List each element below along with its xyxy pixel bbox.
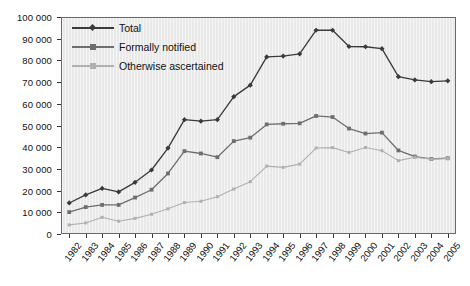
x-axis-tick-mark [250, 234, 251, 238]
legend-label-formally-notified: Formally notified [119, 41, 196, 53]
data-point-marker [232, 139, 236, 143]
data-point-marker [84, 221, 87, 224]
series-formally-notified [67, 114, 449, 214]
y-axis-tick-label: 20 000 [0, 185, 52, 196]
x-axis-tick-mark [283, 234, 284, 238]
data-point-marker [249, 180, 252, 183]
data-point-marker [347, 127, 351, 131]
data-point-marker [166, 172, 170, 176]
legend-label-total: Total [119, 22, 141, 34]
legend-item-otherwise-ascertained: Otherwise ascertained [72, 60, 223, 72]
y-axis-tick-label: 30 000 [0, 163, 52, 174]
x-axis-tick-mark [316, 234, 317, 238]
data-point-marker [282, 166, 285, 169]
x-axis-tick-mark [300, 234, 301, 238]
data-point-marker [281, 53, 286, 58]
y-axis-tick-label: 80 000 [0, 55, 52, 66]
data-point-marker [199, 200, 202, 203]
data-point-marker [298, 163, 301, 166]
data-point-marker [429, 79, 434, 84]
y-axis-tick-label: 90 000 [0, 33, 52, 44]
legend-swatch-formally-notified [72, 41, 114, 53]
data-point-marker [298, 121, 302, 125]
x-axis-tick-mark [448, 234, 449, 238]
data-point-marker [380, 149, 383, 152]
x-axis-tick-mark [86, 234, 87, 238]
data-point-marker [166, 207, 169, 210]
data-point-marker [265, 123, 269, 127]
y-axis-tick-label: 50 000 [0, 120, 52, 131]
data-point-marker [446, 157, 449, 160]
data-point-marker [68, 223, 71, 226]
x-axis-tick-mark [102, 234, 103, 238]
y-axis-tick-label: 70 000 [0, 77, 52, 88]
data-point-marker [215, 155, 219, 159]
x-axis-tick-mark [398, 234, 399, 238]
y-axis-tick-label: 40 000 [0, 142, 52, 153]
x-axis-tick-mark [431, 234, 432, 238]
x-axis-tick-mark [201, 234, 202, 238]
x-axis-tick-mark [168, 234, 169, 238]
data-point-marker [397, 159, 400, 162]
x-axis-tick-mark [349, 234, 350, 238]
data-point-marker [265, 165, 268, 168]
x-axis-tick-mark [69, 234, 70, 238]
x-axis-tick-mark [267, 234, 268, 238]
data-point-marker [363, 44, 368, 49]
legend: Total Formally notified Otherwise ascert… [72, 22, 223, 72]
y-axis-tick-label: 60 000 [0, 98, 52, 109]
y-axis-tick-mark [57, 234, 61, 235]
data-point-marker [216, 195, 219, 198]
legend-swatch-total [72, 22, 114, 34]
data-point-marker [133, 196, 137, 200]
data-point-marker [348, 151, 351, 154]
legend-item-formally-notified: Formally notified [72, 41, 223, 53]
data-point-marker [116, 189, 121, 194]
data-point-marker [331, 115, 335, 119]
data-point-marker [430, 158, 433, 161]
y-axis-tick-label: 100 000 [0, 12, 52, 23]
data-point-marker [412, 77, 417, 82]
data-point-marker [232, 188, 235, 191]
data-point-marker [364, 132, 368, 136]
data-point-marker [183, 201, 186, 204]
x-axis-tick-mark [135, 234, 136, 238]
data-point-marker [100, 203, 104, 207]
x-axis-tick-mark [415, 234, 416, 238]
data-point-marker [182, 117, 187, 122]
legend-label-otherwise-ascertained: Otherwise ascertained [119, 60, 223, 72]
data-point-marker [445, 78, 450, 83]
data-point-marker [83, 192, 88, 197]
data-point-marker [315, 147, 318, 150]
data-point-marker [364, 146, 367, 149]
x-axis-tick-mark [184, 234, 185, 238]
x-axis-tick-mark [119, 234, 120, 238]
data-point-marker [150, 213, 153, 216]
x-axis-tick-mark [382, 234, 383, 238]
y-axis-tick-label: 0 [0, 229, 52, 240]
series-line [69, 116, 448, 212]
data-point-marker [117, 203, 121, 207]
data-point-marker [199, 152, 203, 156]
series-line [69, 147, 448, 224]
legend-swatch-otherwise-ascertained [72, 60, 114, 72]
legend-item-total: Total [72, 22, 223, 34]
data-point-marker [150, 188, 154, 192]
data-point-marker [248, 136, 252, 140]
y-axis-tick-label: 10 000 [0, 207, 52, 218]
data-point-marker [281, 122, 285, 126]
data-point-marker [134, 217, 137, 220]
data-point-marker [198, 119, 203, 124]
data-point-marker [84, 205, 88, 209]
data-point-marker [67, 210, 71, 214]
data-point-marker [397, 149, 401, 153]
data-point-marker [331, 146, 334, 149]
x-axis-tick-mark [152, 234, 153, 238]
data-point-marker [100, 186, 105, 191]
data-point-marker [67, 200, 72, 205]
data-point-marker [264, 54, 269, 59]
data-point-marker [314, 114, 318, 118]
data-point-marker [117, 220, 120, 223]
x-axis-tick-mark [234, 234, 235, 238]
data-point-marker [183, 149, 187, 153]
